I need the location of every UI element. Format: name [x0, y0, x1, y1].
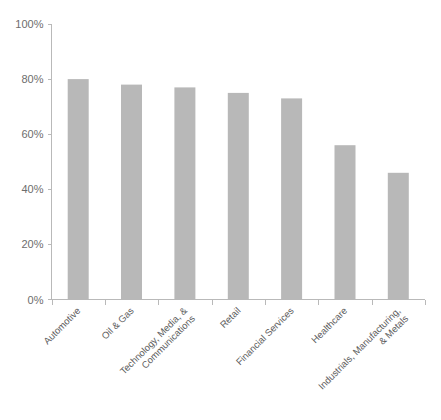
y-axis: 0%20%40%60%80%100%	[15, 18, 51, 306]
y-tick-label: 40%	[21, 183, 43, 195]
x-category-label: Automotive	[41, 305, 82, 346]
x-category-label-line: Healthcare	[309, 305, 349, 345]
bar: Retail: 75%	[228, 93, 249, 300]
x-category-label-line: Automotive	[41, 305, 82, 346]
y-tick-label: 60%	[21, 128, 43, 140]
bar-series: Automotive: 80%Oil & Gas: 78%Technology,…	[68, 79, 409, 299]
bar: Technology, Media, & Communications: 77%	[174, 87, 195, 299]
x-category-label: Retail	[218, 305, 243, 330]
y-tick-label: 100%	[15, 18, 43, 30]
y-axis-ticks: 0%20%40%60%80%100%	[15, 18, 51, 306]
x-category-label: Healthcare	[309, 305, 349, 345]
y-tick-label: 20%	[21, 238, 43, 250]
x-category-label: Oil & Gas	[99, 305, 136, 342]
y-tick-label: 80%	[21, 73, 43, 85]
bar: Industrials, Manufacturing, & Metals: 46…	[388, 173, 409, 300]
bar: Automotive: 80%	[68, 79, 89, 299]
x-axis-ticks	[53, 300, 426, 305]
chart-canvas: 0%20%40%60%80%100% Automotive: 80%Oil & …	[0, 0, 441, 420]
bar: Oil & Gas: 78%	[121, 85, 142, 300]
x-axis-category-labels: AutomotiveOil & GasTechnology, Media, &C…	[41, 304, 410, 399]
y-tick-label: 0%	[28, 294, 44, 306]
x-category-label-line: Retail	[218, 305, 243, 330]
bar-chart: 0%20%40%60%80%100% Automotive: 80%Oil & …	[0, 0, 441, 420]
x-axis	[52, 300, 426, 305]
x-category-label: Financial Services	[234, 305, 296, 367]
bar: Financial Services: 73%	[281, 98, 302, 299]
x-category-label-line: Financial Services	[234, 305, 296, 367]
bar: Healthcare: 56%	[335, 145, 356, 299]
x-category-label-line: Oil & Gas	[99, 305, 136, 342]
